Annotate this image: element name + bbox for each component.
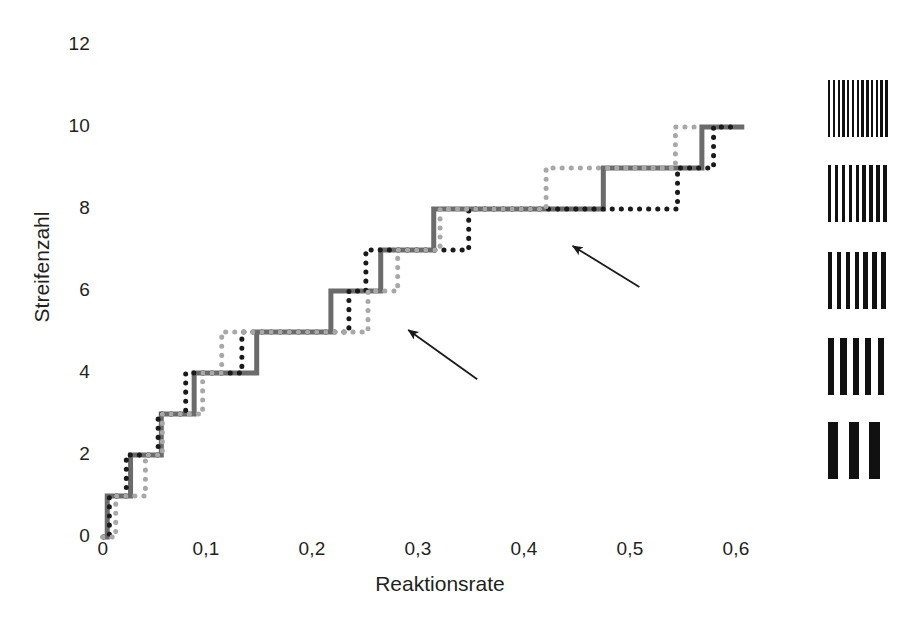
- xtick-label-0-2: 0,2: [277, 538, 347, 560]
- grating-patch-5: [828, 422, 890, 479]
- series-light-gray-dotted-staircase: [103, 127, 703, 537]
- xtick-label-0-1: 0,1: [171, 538, 241, 560]
- series-layer: [103, 127, 744, 537]
- ytick-label-10: 10: [46, 115, 90, 137]
- grating-patch-1: [828, 80, 890, 137]
- annotation-layer: [408, 246, 639, 379]
- arrow-reversal-lower: [408, 330, 477, 379]
- grating-patch-5-stripes: [828, 422, 890, 479]
- xtick-label-0-6: 0,6: [701, 538, 771, 560]
- xtick-label-0-4: 0,4: [489, 538, 559, 560]
- grating-legend: [828, 80, 894, 470]
- ytick-label-12: 12: [46, 33, 90, 55]
- xtick-label-0: 0: [68, 538, 138, 560]
- grating-patch-2: [828, 165, 890, 222]
- grating-patch-3: [828, 252, 890, 309]
- xtick-label-0-3: 0,3: [383, 538, 453, 560]
- series-solid-gray-staircase: [103, 127, 744, 537]
- grating-patch-4-stripes: [828, 338, 890, 395]
- grating-patch-2-stripes: [828, 165, 890, 222]
- xtick-label-0-5: 0,5: [595, 538, 665, 560]
- grating-patch-3-stripes: [828, 252, 890, 309]
- grating-patch-4: [828, 338, 890, 395]
- plot-canvas: [0, 0, 909, 626]
- staircase-figure: 12 10 8 6 4 2 0 0 0,1 0,2 0,3 0,4 0,5 0,…: [0, 0, 909, 626]
- series-black-dotted-staircase: [103, 127, 739, 537]
- x-axis-title: Reaktionsrate: [300, 572, 580, 596]
- arrow-reversal-upper: [573, 246, 640, 287]
- ytick-label-2: 2: [46, 443, 90, 465]
- y-axis-title: Streifenzahl: [30, 167, 54, 367]
- grating-patch-1-stripes: [828, 80, 890, 137]
